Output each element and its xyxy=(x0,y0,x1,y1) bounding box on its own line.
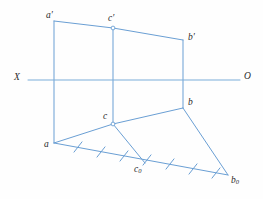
seg-aprime-cprime xyxy=(54,21,113,28)
seg-cprime-bprime xyxy=(113,28,183,40)
point-marker-c xyxy=(111,122,115,126)
diagram-canvas: a′c′b′acbc0b0 X O xyxy=(0,0,263,199)
point-label-c-prime: c′ xyxy=(108,14,114,24)
point-label-a-prime: a′ xyxy=(46,11,53,21)
point-marker-c-prime xyxy=(111,26,115,30)
seg-c-b xyxy=(113,108,183,124)
tick-marks-group xyxy=(74,142,220,178)
axis-label-x: X xyxy=(14,73,20,83)
point-label-c-zero: c0 xyxy=(134,165,141,175)
point-label-b-zero: b0 xyxy=(231,176,239,186)
axis-label-o: O xyxy=(244,72,251,82)
point-label-b: b xyxy=(188,98,193,108)
point-label-c: c xyxy=(103,112,107,122)
seg-b-bzero xyxy=(183,108,228,175)
seg-a-c xyxy=(54,124,113,143)
segments-group xyxy=(54,21,228,175)
projection-drawing xyxy=(0,0,263,199)
point-label-b-prime: b′ xyxy=(188,33,195,43)
point-label-a: a xyxy=(44,140,49,150)
